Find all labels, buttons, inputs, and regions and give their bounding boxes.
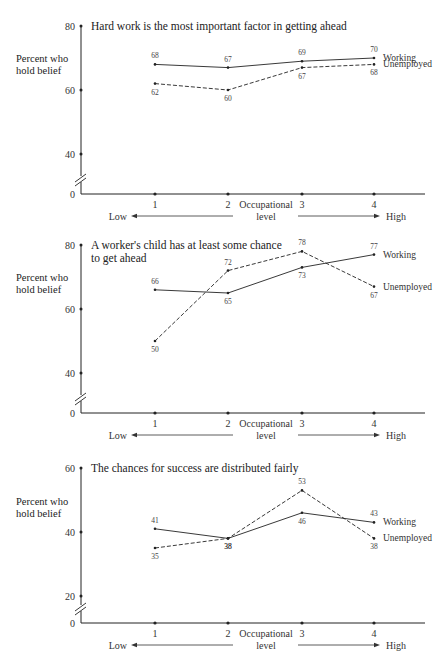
x-tick-label: 2 xyxy=(226,418,231,429)
series-line xyxy=(155,251,374,341)
x-tick-mark xyxy=(153,621,156,624)
arrow-left-icon xyxy=(131,433,137,437)
data-point xyxy=(227,269,230,272)
x-axis-label: level xyxy=(256,211,276,222)
data-value-label: 43 xyxy=(370,509,378,518)
data-value-label: 67 xyxy=(224,55,232,64)
chart-figure: 0406080Hard work is the most important f… xyxy=(0,0,441,658)
y-tick-label: 40 xyxy=(65,527,75,538)
data-point xyxy=(227,89,230,92)
data-value-label: 46 xyxy=(298,517,306,526)
data-value-label: 41 xyxy=(151,516,159,525)
data-value-label: 68 xyxy=(370,68,378,77)
arrow-left-icon xyxy=(131,643,137,647)
x-high-label: High xyxy=(386,430,406,441)
x-tick-mark xyxy=(153,411,156,414)
y-tick-label: 40 xyxy=(65,149,75,160)
data-point xyxy=(154,340,157,343)
x-tick-label: 1 xyxy=(153,199,158,210)
x-tick-mark xyxy=(372,192,375,195)
y-tick-mark xyxy=(80,25,83,28)
x-high-label: High xyxy=(386,211,406,222)
series-line xyxy=(155,513,374,539)
y-tick-label: 20 xyxy=(65,591,75,602)
arrow-right-icon xyxy=(374,433,380,437)
x-low-label: Low xyxy=(109,640,128,651)
y-tick-label: 60 xyxy=(65,304,75,315)
data-value-label: 60 xyxy=(224,94,232,103)
y-tick-label: 0 xyxy=(70,408,75,419)
data-value-label: 70 xyxy=(370,45,378,54)
data-point xyxy=(227,292,230,295)
y-axis-label: hold belief xyxy=(16,65,62,76)
y-tick-label: 0 xyxy=(70,618,75,629)
x-axis-label: Occupational xyxy=(239,199,293,210)
x-tick-label: 4 xyxy=(372,628,377,639)
data-point xyxy=(373,285,376,288)
x-low-label: Low xyxy=(109,211,128,222)
data-point xyxy=(154,63,157,66)
series-name-label: Unemployed xyxy=(383,533,432,543)
y-tick-mark xyxy=(80,244,83,247)
x-tick-mark xyxy=(226,192,229,195)
data-point xyxy=(154,528,157,531)
chart-panel-3: 0204060The chances for success are distr… xyxy=(16,462,432,651)
data-value-label: 67 xyxy=(370,291,378,300)
series-line xyxy=(155,64,374,90)
series-name-label: Unemployed xyxy=(383,59,432,69)
y-tick-mark xyxy=(80,595,83,598)
arrow-left-icon xyxy=(131,214,137,218)
chart-title: The chances for success are distributed … xyxy=(91,462,299,475)
data-point xyxy=(373,521,376,524)
x-tick-mark xyxy=(300,621,303,624)
x-axis-label: level xyxy=(256,640,276,651)
data-point xyxy=(301,512,304,515)
data-point xyxy=(227,66,230,69)
y-tick-mark xyxy=(80,531,83,534)
x-tick-label: 2 xyxy=(226,199,231,210)
data-point xyxy=(373,253,376,256)
x-tick-label: 4 xyxy=(372,199,377,210)
data-value-label: 68 xyxy=(151,51,159,60)
chart-title: A worker's child has at least some chanc… xyxy=(91,239,282,251)
data-value-label: 66 xyxy=(151,277,159,286)
data-point xyxy=(301,266,304,269)
data-point xyxy=(373,63,376,66)
data-point xyxy=(154,82,157,85)
x-tick-label: 3 xyxy=(300,199,305,210)
data-value-label: 73 xyxy=(298,271,306,280)
data-point xyxy=(373,57,376,60)
x-tick-mark xyxy=(300,411,303,414)
y-axis-label: Percent who xyxy=(16,496,68,507)
x-axis-label: Occupational xyxy=(239,418,293,429)
y-axis-label: Percent who xyxy=(16,272,68,283)
y-tick-mark xyxy=(80,89,83,92)
x-tick-mark xyxy=(372,621,375,624)
series-name-label: Working xyxy=(383,250,416,260)
x-tick-mark xyxy=(226,621,229,624)
data-point xyxy=(301,489,304,492)
data-point xyxy=(301,250,304,253)
y-tick-mark xyxy=(80,467,83,470)
data-point xyxy=(227,537,230,540)
x-tick-label: 2 xyxy=(226,628,231,639)
data-value-label: 69 xyxy=(298,48,306,57)
y-axis-label: hold belief xyxy=(16,508,62,519)
data-point xyxy=(373,537,376,540)
data-value-label: 38 xyxy=(370,542,378,551)
chart-panel-2: 0406080A worker's child has at least som… xyxy=(16,238,432,441)
series-name-label: Working xyxy=(383,517,416,527)
x-tick-mark xyxy=(153,192,156,195)
data-value-label: 65 xyxy=(224,297,232,306)
data-value-label: 77 xyxy=(370,242,378,251)
x-tick-mark xyxy=(226,411,229,414)
x-tick-label: 3 xyxy=(300,628,305,639)
data-value-label: 62 xyxy=(151,88,159,97)
series-name-label: Unemployed xyxy=(383,282,432,292)
data-point xyxy=(301,60,304,63)
y-tick-label: 60 xyxy=(65,85,75,96)
x-tick-mark xyxy=(372,411,375,414)
data-value-label: 50 xyxy=(151,345,159,354)
y-tick-mark xyxy=(80,372,83,375)
y-tick-mark xyxy=(80,153,83,156)
